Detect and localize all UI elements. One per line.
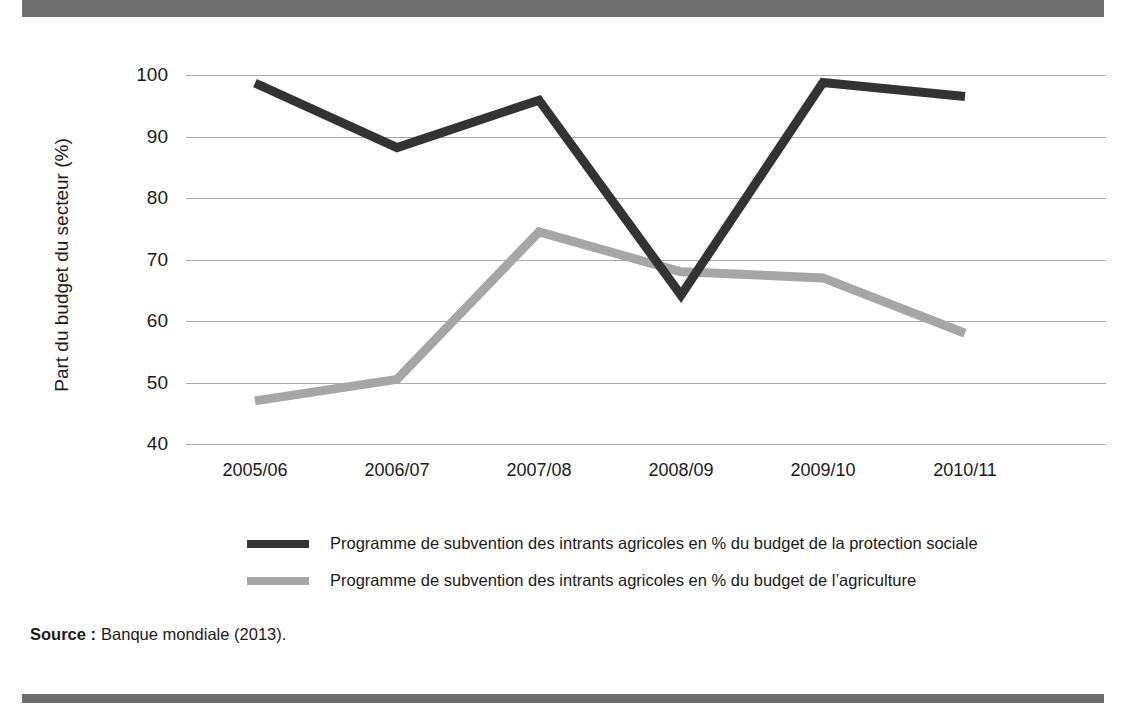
series-line-agriculture [255, 232, 965, 401]
source-label: Source : [30, 625, 96, 643]
legend-item: Programme de subvention des intrants agr… [247, 562, 1067, 599]
source-text: Banque mondiale (2013). [101, 625, 286, 643]
figure-panel: Part du budget du secteur (%) 4050607080… [0, 0, 1126, 715]
figure-bottom-rule [22, 694, 1104, 703]
chart-legend: Programme de subvention des intrants agr… [247, 525, 1067, 599]
legend-label-protection-sociale: Programme de subvention des intrants agr… [330, 534, 978, 553]
chart-plot-area: Part du budget du secteur (%) 4050607080… [0, 0, 1126, 715]
series-line-protection-sociale [255, 82, 965, 295]
chart-series-layer [0, 0, 1126, 715]
legend-swatch-protection-sociale [247, 540, 309, 548]
source-note: Source :Banque mondiale (2013). [30, 625, 286, 644]
legend-swatch-agriculture [247, 577, 309, 585]
legend-item: Programme de subvention des intrants agr… [247, 525, 1067, 562]
legend-label-agriculture: Programme de subvention des intrants agr… [330, 571, 916, 590]
